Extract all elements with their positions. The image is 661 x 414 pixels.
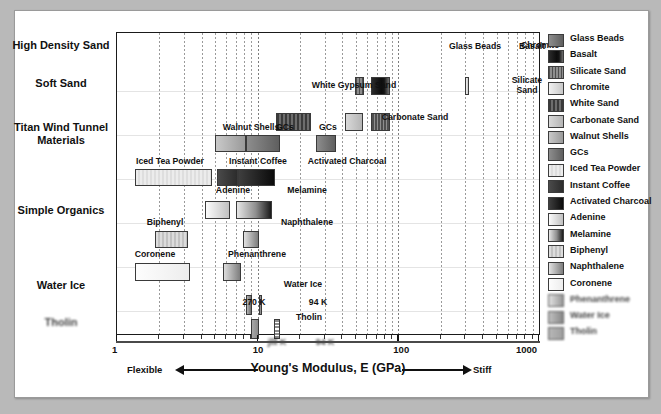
legend-swatch (548, 148, 564, 161)
legend-swatch (548, 294, 564, 307)
x-tick-label-10: 10 (253, 344, 264, 355)
bar-adenine (205, 201, 230, 219)
legend-label: GCs (570, 147, 589, 157)
legend-item[interactable]: Naphthalene (538, 261, 648, 275)
legend-item[interactable]: Carbonate Sand (538, 115, 648, 129)
category-label-high-density-sand: High Density Sand (9, 39, 113, 52)
legend-swatch (548, 327, 564, 340)
legend-swatch (548, 50, 564, 63)
legend-item[interactable]: Biphenyl (538, 245, 648, 259)
legend-swatch (548, 213, 564, 226)
bar-label-water-ice: Water Ice (265, 279, 341, 289)
x-tick-label-1000: 1000 (516, 344, 537, 355)
legend-item[interactable]: White Sand (538, 98, 648, 112)
bar-label-water-ice-94k: 94 K (302, 297, 334, 307)
legend-swatch (548, 131, 564, 144)
axis-tick (225, 335, 226, 339)
axis-tick (183, 335, 184, 339)
legend-swatch (548, 278, 564, 291)
legend-item[interactable]: Activated Charcoal (538, 196, 648, 210)
bar-phenanthrene (223, 263, 241, 281)
axis-tick (324, 335, 325, 339)
legend-swatch (548, 82, 564, 95)
axis-tick (366, 335, 367, 339)
axis-tick (384, 335, 385, 339)
bar-walnut-shells (215, 135, 246, 152)
legend-item[interactable]: Instant Coffee (538, 180, 648, 194)
legend-swatch (548, 66, 564, 79)
x-tick-label-1: 1 (112, 344, 117, 355)
axis-tick (440, 335, 441, 339)
legend-label: Walnut Shells (570, 131, 629, 141)
gridline (392, 33, 393, 334)
x-tick-label-100: 100 (393, 344, 409, 355)
axis-tick (158, 335, 159, 339)
bar-label-iced-tea-powder: Iced Tea Powder (115, 156, 225, 166)
legend-label: Glass Beads (570, 33, 624, 43)
legend-item[interactable]: Silicate Sand (538, 66, 648, 80)
bar-naphthalene (243, 231, 259, 248)
legend-label: Melamine (570, 229, 611, 239)
legend-swatch (548, 311, 564, 324)
bar-coronene (135, 263, 190, 281)
legend-item[interactable]: Melamine (538, 229, 648, 243)
legend-label: Silicate Sand (570, 66, 626, 76)
category-label-tholin: Tholin (9, 316, 113, 329)
axis-tick (235, 335, 236, 339)
axis-tick (355, 335, 356, 339)
legend-swatch (548, 164, 564, 177)
row-divider (117, 91, 539, 92)
axis-tick (341, 335, 342, 339)
legend-item[interactable]: Coronene (538, 278, 648, 292)
legend-swatch (548, 115, 564, 128)
legend-label: Coronene (570, 278, 612, 288)
axis-tick (391, 335, 392, 339)
legend-item[interactable]: Phenanthrene (538, 294, 648, 308)
legend-item[interactable]: Basalt (538, 49, 648, 63)
legend-item[interactable]: Iced Tea Powder (538, 163, 648, 177)
axis-tick (516, 335, 517, 339)
legend-label: Iced Tea Powder (570, 163, 640, 173)
legend-swatch (548, 34, 564, 47)
legend-label: Phenanthrene (570, 294, 630, 304)
bar-label-adenine: Adenine (197, 185, 269, 195)
legend-item[interactable]: Tholin (538, 326, 648, 340)
axis-tick (464, 335, 465, 339)
legend-swatch (548, 229, 564, 242)
legend-label: Carbonate Sand (570, 115, 639, 125)
bar-biphenyl (155, 231, 188, 248)
bar-gcs (246, 135, 280, 152)
category-label-simple-organics: Simple Organics (9, 204, 113, 217)
legend-swatch (548, 99, 564, 112)
legend-label: Basalt (570, 49, 597, 59)
bar-instant-coffee (217, 169, 238, 186)
legend-item[interactable]: Adenine (538, 212, 648, 226)
bar-label-coronene: Coronene (109, 249, 201, 259)
legend-item[interactable]: Walnut Shells (538, 131, 648, 145)
legend-item[interactable]: Water Ice (538, 310, 648, 324)
axis-tick (496, 335, 497, 339)
bar-label-melamine: Melamine (267, 185, 347, 195)
legend-swatch (548, 262, 564, 275)
gridline (342, 33, 343, 334)
bar-label-phenanthrene: Phenanthrene (209, 249, 305, 259)
legend-swatch (548, 197, 564, 210)
legend-label: Adenine (570, 212, 606, 222)
x-axis-title-row: Flexible Stiff Young's Modulus, E (GPa) (116, 360, 540, 380)
legend-label: Activated Charcoal (570, 196, 652, 206)
legend-label: Tholin (570, 326, 597, 336)
gridline (497, 33, 498, 334)
bar-label-white-gypsum-sand: White Gypsum Sand (289, 80, 419, 90)
legend-item[interactable]: Glass Beads (538, 33, 648, 47)
legend-label: Biphenyl (570, 245, 608, 255)
bar-label-activated-charcoal: Activated Charcoal (289, 156, 405, 166)
x-axis-title: Young's Modulus, E (GPa) (116, 361, 540, 375)
gridline (398, 33, 399, 334)
gridline (441, 33, 442, 334)
bar-chromite (465, 77, 469, 95)
legend-label: White Sand (570, 98, 619, 108)
legend-label: Chromite (570, 82, 610, 92)
legend-swatch (548, 180, 564, 193)
legend-item[interactable]: Chromite (538, 82, 648, 96)
legend-item[interactable]: GCs (538, 147, 648, 161)
